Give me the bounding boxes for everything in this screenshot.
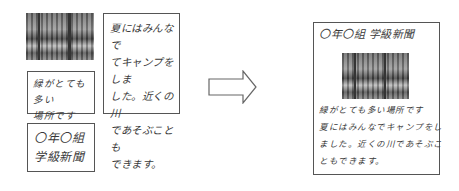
left-text-box-small: 緑がとても多い 場所です xyxy=(27,71,95,114)
body-line: ました。近くの川であそぶこ xyxy=(319,136,443,153)
text-line: 場所です xyxy=(33,108,89,124)
text-line: てキャンプをしま xyxy=(110,54,173,88)
right-arrow-icon xyxy=(208,70,258,104)
title-line: 学級新聞 xyxy=(34,148,88,167)
newspaper-body: 緑がとても多い場所です 夏にはみんなでキャンプをし ました。近くの川であそぶこ … xyxy=(319,102,443,170)
title-line: 〇年〇組 xyxy=(34,129,88,148)
left-text-box-tall: 夏にはみんなで てキャンプをしま した。近くの川 であそぶことも できます。 xyxy=(103,13,180,114)
body-line: 夏にはみんなでキャンプをし xyxy=(319,119,443,136)
newspaper-photo xyxy=(342,53,409,99)
text-line: であそぶことも xyxy=(110,122,173,156)
body-line: ともできます。 xyxy=(319,153,443,170)
text-line: 緑がとても多い xyxy=(33,76,89,108)
text-line: 夏にはみんなで xyxy=(110,20,173,54)
body-line: 緑がとても多い場所です xyxy=(319,102,443,119)
left-photo xyxy=(26,13,94,60)
newspaper-title: 〇年〇組 学級新聞 xyxy=(319,26,415,43)
left-title-box: 〇年〇組 学級新聞 xyxy=(27,123,95,172)
newspaper-frame: 〇年〇組 学級新聞 緑がとても多い場所です 夏にはみんなでキャンプをし ました。… xyxy=(313,22,440,175)
text-line: できます。 xyxy=(110,156,173,173)
text-line: した。近くの川 xyxy=(110,88,173,122)
